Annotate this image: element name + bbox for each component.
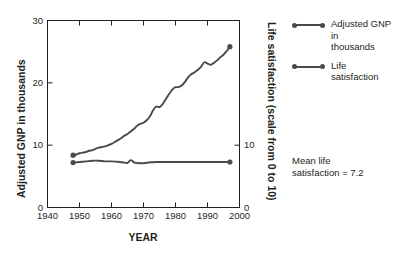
series-1-endpoint-marker (227, 159, 232, 164)
legend-line-marker-icon (292, 19, 325, 31)
plot-border (48, 21, 240, 208)
series-0-endpoint-marker (227, 44, 232, 49)
legend-line-marker-icon (292, 61, 325, 73)
annotation-line-1: Mean life (292, 155, 392, 167)
chart-figure: 0102030 010 1940195019601970198019902000… (0, 0, 395, 263)
y-axis-right-tick-label: 10 (244, 140, 255, 150)
x-axis-title: YEAR (47, 232, 239, 243)
y-axis-left-tick-label: 30 (20, 16, 43, 26)
y-axis-right-title: Life satisfaction (scale from 0 to 10) (267, 22, 278, 201)
legend-item-life-satisfaction[interactable]: Life satisfaction (292, 60, 395, 83)
legend-label-life-satisfaction: Life satisfaction (331, 60, 395, 83)
series-0-endpoint-marker (71, 153, 76, 158)
annotation-line-2: satisfaction = 7.2 (292, 167, 392, 179)
mean-life-satisfaction-annotation: Mean life satisfaction = 7.2 (292, 155, 392, 179)
x-axis-tick-label: 2000 (220, 211, 260, 221)
y-axis-left-title: Adjusted GNP in thousands (16, 59, 27, 198)
legend-label-gnp-line2: thousands (331, 41, 375, 52)
legend-label-gnp: Adjusted GNP in thousands (331, 18, 395, 53)
legend-item-gnp[interactable]: Adjusted GNP in thousands (292, 18, 395, 53)
series-1-endpoint-marker (71, 160, 76, 165)
legend-label-gnp-line1: Adjusted GNP in (331, 18, 391, 41)
chart-legend: Adjusted GNP in thousands Life satisfact… (292, 18, 395, 90)
